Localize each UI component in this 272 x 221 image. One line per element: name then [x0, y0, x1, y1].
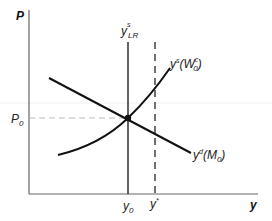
as-ad-diagram: P y P0 y0 y* ysLR ys(Wc0) yd(M0) [0, 0, 272, 221]
p0-label: P0 [11, 112, 24, 128]
y0-label: y0 [122, 199, 134, 215]
demand-curve [49, 78, 191, 153]
long-run-supply-label: ysLR [120, 21, 138, 40]
ystar-label: y* [149, 197, 159, 211]
x-axis-label: y [249, 198, 258, 212]
short-run-supply-label: ys(Wc0) [169, 56, 202, 73]
y-axis-label: P [16, 9, 25, 23]
equilibrium-point [125, 115, 131, 121]
demand-label: yd(M0) [192, 148, 225, 164]
